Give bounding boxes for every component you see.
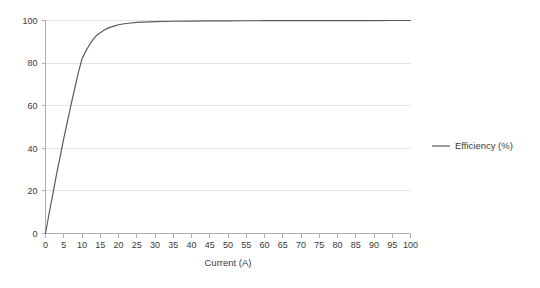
x-tick-label: 40 (186, 240, 196, 250)
x-axis-title: Current (A) (205, 257, 252, 268)
y-tick-label: 80 (27, 58, 37, 68)
x-tick-label: 75 (314, 240, 324, 250)
x-tick-label: 20 (113, 240, 123, 250)
x-tick-label: 50 (223, 240, 233, 250)
y-tick-label: 0 (32, 229, 37, 239)
legend: Efficiency (%) (432, 140, 513, 151)
chart-canvas: 020406080100 051015202530354045505560657… (0, 0, 540, 288)
x-tick-label: 35 (168, 240, 178, 250)
y-tick-label: 60 (27, 101, 37, 111)
x-tick-label: 80 (332, 240, 342, 250)
y-axis: 020406080100 (22, 16, 45, 239)
x-tick-label: 65 (278, 240, 288, 250)
x-tick-label: 5 (61, 240, 66, 250)
x-tick-label: 0 (43, 240, 48, 250)
y-tick-label: 20 (27, 186, 37, 196)
efficiency-current-chart: 020406080100 051015202530354045505560657… (0, 0, 540, 288)
y-tick-group: 020406080100 (22, 16, 45, 239)
x-axis: 0510152025303540455055606570758085909510… (43, 234, 418, 250)
x-tick-label: 45 (205, 240, 215, 250)
x-tick-label: 25 (132, 240, 142, 250)
x-tick-label: 30 (150, 240, 160, 250)
y-tick-label: 40 (27, 144, 37, 154)
y-tick-label: 100 (22, 16, 37, 26)
x-tick-label: 15 (95, 240, 105, 250)
x-tick-label: 60 (259, 240, 269, 250)
x-tick-label: 10 (77, 240, 87, 250)
legend-label: Efficiency (%) (455, 140, 513, 151)
x-tick-label: 95 (387, 240, 397, 250)
x-tick-group: 0510152025303540455055606570758085909510… (43, 234, 418, 250)
x-tick-label: 90 (369, 240, 379, 250)
x-tick-label: 85 (351, 240, 361, 250)
gridlines (46, 21, 411, 234)
series-group (46, 21, 411, 234)
x-tick-label: 100 (403, 240, 418, 250)
series-line (46, 21, 411, 234)
x-tick-label: 70 (296, 240, 306, 250)
x-tick-label: 55 (241, 240, 251, 250)
